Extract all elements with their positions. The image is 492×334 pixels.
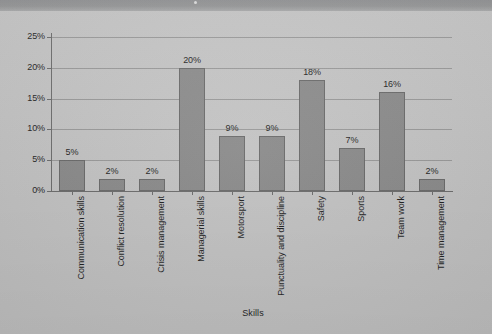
x-axis-tick — [272, 191, 273, 195]
x-axis-tick — [192, 191, 193, 195]
bar-value-label: 16% — [372, 80, 412, 89]
bar-value-label: 9% — [212, 124, 252, 133]
gridline — [52, 68, 452, 69]
page-top-band — [0, 0, 492, 11]
bar-value-label: 20% — [172, 56, 212, 65]
bar-value-label: 2% — [92, 167, 132, 176]
gridline — [52, 37, 452, 38]
x-axis-category-label: Communication skills — [76, 196, 86, 280]
x-axis-category-label: Safety — [316, 196, 326, 221]
y-axis-tick — [47, 129, 52, 130]
x-axis-title-text: Skills — [242, 308, 264, 318]
x-axis-tick — [312, 191, 313, 195]
bar-value-label: 2% — [412, 167, 452, 176]
x-axis-category-label: Punctuality and discipline — [276, 196, 286, 296]
bar-value-label: 9% — [252, 124, 292, 133]
bar — [379, 92, 405, 191]
y-axis-tick — [47, 191, 52, 192]
x-axis-category-label: Crisis management — [156, 196, 166, 273]
bar-value-label: 7% — [332, 136, 372, 145]
y-axis-tick-label: 5% — [3, 155, 45, 164]
bar — [339, 148, 365, 191]
bar — [299, 80, 325, 191]
chart-screenshot: 0%5%10%15%20%25% 5%2%2%20%9%9%18%7%16%2%… — [0, 0, 492, 334]
bar — [99, 179, 125, 191]
bar-chart: 0%5%10%15%20%25% 5%2%2%20%9%9%18%7%16%2%… — [0, 11, 492, 334]
bar — [259, 136, 285, 191]
y-axis-tick-label: 25% — [3, 32, 45, 41]
x-axis-category-label: Conflict resolution — [116, 196, 126, 267]
y-axis-tick — [47, 68, 52, 69]
bar — [139, 179, 165, 191]
y-axis-tick-label: 0% — [3, 186, 45, 195]
x-axis-tick — [232, 191, 233, 195]
y-axis-tick — [47, 160, 52, 161]
y-axis-tick-label: 15% — [3, 94, 45, 103]
y-axis-tick-labels: 0%5%10%15%20%25% — [0, 37, 45, 191]
bar-value-label: 5% — [52, 148, 92, 157]
bar — [59, 160, 85, 191]
x-axis-category-label: Motorsport — [236, 196, 246, 239]
x-axis-category-label: Time management — [436, 196, 446, 270]
x-axis-tick — [152, 191, 153, 195]
x-axis-tick — [352, 191, 353, 195]
bar — [179, 68, 205, 191]
x-axis-category-label: Sports — [356, 196, 366, 222]
x-axis-tick — [392, 191, 393, 195]
x-axis-tick — [112, 191, 113, 195]
x-axis-tick — [72, 191, 73, 195]
x-axis-category-label: Team work — [396, 196, 406, 239]
bar-value-label: 18% — [292, 68, 332, 77]
y-axis-tick — [47, 37, 52, 38]
y-axis-tick-label: 20% — [3, 63, 45, 72]
bar — [419, 179, 445, 191]
x-axis-title: Skills — [0, 308, 492, 318]
x-axis-category-labels: Communication skillsConflict resolutionC… — [52, 196, 452, 306]
plot-area: 0%5%10%15%20%25% 5%2%2%20%9%9%18%7%16%2% — [52, 37, 452, 191]
bar — [219, 136, 245, 191]
bar-value-label: 2% — [132, 167, 172, 176]
top-band-speck — [194, 1, 197, 4]
x-axis-category-label: Managerial skills — [196, 196, 206, 262]
y-axis-tick — [47, 99, 52, 100]
y-axis-line — [51, 33, 52, 192]
y-axis-tick-label: 10% — [3, 124, 45, 133]
x-axis-tick — [432, 191, 433, 195]
